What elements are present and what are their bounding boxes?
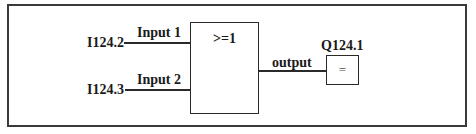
coil-symbol: = (327, 62, 358, 78)
output-wire (258, 70, 328, 72)
output-coil-block: = (326, 55, 359, 85)
input-1-address: I124.2 (87, 36, 124, 50)
or-gate-block: >=1 (190, 22, 259, 114)
input-1-label: Input 1 (137, 26, 181, 40)
input-2-label: Input 2 (137, 73, 181, 87)
input-2-address: I124.3 (87, 83, 124, 97)
input-2-wire (125, 89, 191, 91)
output-label: output (272, 56, 312, 70)
gate-symbol: >=1 (191, 31, 258, 47)
input-1-wire (124, 42, 190, 44)
coil-address: Q124.1 (321, 39, 363, 53)
